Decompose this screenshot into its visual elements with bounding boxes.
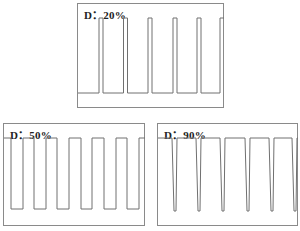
- waveform-duty-90: [158, 124, 299, 227]
- waveform-duty-50: [4, 124, 146, 227]
- panel-duty-50: D：50%: [3, 123, 145, 226]
- panel-duty-20: D：20%: [77, 3, 224, 108]
- waveform-duty-20: [78, 4, 225, 109]
- panel-duty-90: D：90%: [157, 123, 298, 226]
